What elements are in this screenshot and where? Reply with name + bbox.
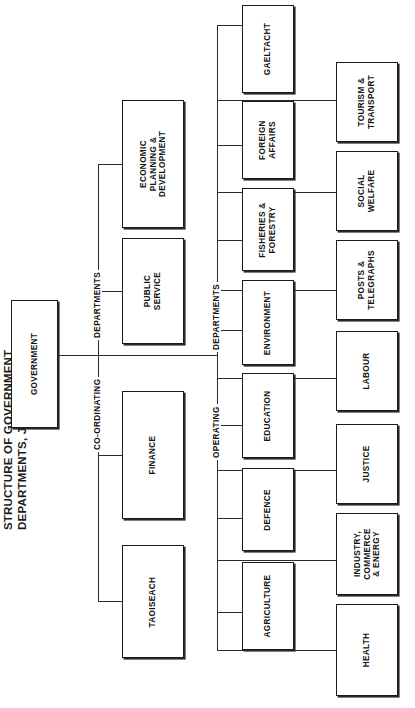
node-gaeltacht-label: GAELTACHT: [263, 23, 273, 75]
node-agriculture-label: AGRICULTURE: [263, 575, 273, 638]
node-fisheries-forestry[interactable]: FISHERIES & FORESTRY: [242, 188, 294, 271]
connector-operating-a-3: [217, 240, 242, 241]
node-economic-planning-development-label: ECONOMIC PLANNING & DEVELOPMENT: [139, 131, 168, 197]
node-tourism-transport-label: TOURISM & TRANSPORT: [357, 75, 376, 129]
node-social-welfare-label: SOCIAL WELFARE: [357, 170, 376, 212]
node-posts-telegraphs[interactable]: POSTS & TELEGRAPHS: [336, 240, 398, 320]
connector-operating-a-6: [217, 518, 242, 519]
node-labour-label: LABOUR: [362, 352, 372, 389]
node-fisheries-forestry-label: FISHERIES & FORESTRY: [258, 202, 277, 257]
node-government-label: GOVERNMENT: [30, 333, 40, 395]
node-defence-label: DEFENCE: [263, 489, 273, 531]
node-public-service-label: PUBLIC SERVICE: [143, 272, 162, 310]
node-education[interactable]: EDUCATION: [242, 373, 294, 458]
node-taoiseach[interactable]: TAOISEACH: [122, 545, 184, 658]
connector-operating-b-7: [217, 650, 336, 651]
node-justice[interactable]: JUSTICE: [336, 424, 398, 504]
node-industry-commerce-energy-label: INDUSTRY, COMMERCE & ENERGY: [353, 528, 382, 579]
group-label-coordinating-departments: DEPARTMENTS: [93, 270, 102, 340]
node-foreign-affairs-label: FOREIGN AFFAIRS: [258, 120, 277, 160]
node-defence[interactable]: DEFENCE: [242, 468, 294, 551]
node-finance[interactable]: FINANCE: [122, 391, 184, 519]
node-agriculture[interactable]: AGRICULTURE: [242, 562, 294, 650]
connector-coordinating-1: [98, 164, 122, 165]
org-chart-canvas: STRUCTURE OF GOVERNMENT DEPARTMENTS, JUN…: [0, 0, 415, 708]
group-label-operating-departments: DEPARTMENTS: [212, 282, 221, 352]
node-posts-telegraphs-label: POSTS & TELEGRAPHS: [357, 250, 376, 309]
node-public-service[interactable]: PUBLIC SERVICE: [122, 238, 184, 344]
node-justice-label: JUSTICE: [362, 445, 372, 482]
connector-operating-a-2: [217, 145, 242, 146]
connector-operating-a-1: [217, 25, 242, 26]
group-label-operating: OPERATING: [212, 404, 221, 460]
node-labour[interactable]: LABOUR: [336, 331, 398, 411]
connector-operating-a-7: [217, 612, 242, 613]
connector-coordinating-3: [98, 455, 122, 456]
node-taoiseach-label: TAOISEACH: [148, 576, 158, 627]
node-gaeltacht[interactable]: GAELTACHT: [242, 5, 294, 93]
node-industry-commerce-energy[interactable]: INDUSTRY, COMMERCE & ENERGY: [336, 513, 398, 595]
node-health-label: HEALTH: [362, 633, 372, 668]
connector-operating-b-6: [217, 560, 336, 561]
node-government[interactable]: GOVERNMENT: [11, 300, 58, 428]
node-tourism-transport[interactable]: TOURISM & TRANSPORT: [336, 62, 398, 142]
group-label-coordinating: CO-ORDINATING: [93, 377, 102, 452]
node-environment[interactable]: ENVIRONMENT: [242, 280, 294, 365]
node-health[interactable]: HEALTH: [336, 604, 398, 696]
connector-government-to-operating-spine: [98, 355, 218, 356]
node-foreign-affairs[interactable]: FOREIGN AFFAIRS: [242, 101, 294, 179]
node-social-welfare[interactable]: SOCIAL WELFARE: [336, 151, 398, 231]
connector-coordinating-4: [98, 601, 122, 602]
node-economic-planning-development[interactable]: ECONOMIC PLANNING & DEVELOPMENT: [122, 100, 184, 228]
node-finance-label: FINANCE: [148, 436, 158, 475]
node-education-label: EDUCATION: [263, 390, 273, 441]
node-environment-label: ENVIRONMENT: [263, 290, 273, 354]
connector-government-to-coordinating-spine: [58, 355, 99, 356]
